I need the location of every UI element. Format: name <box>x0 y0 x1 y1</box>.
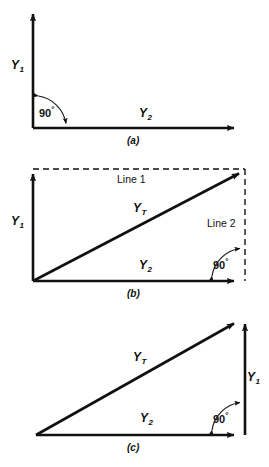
panel-c-caption: (c) <box>127 443 139 453</box>
panel-b-label-yt: YT <box>133 202 146 217</box>
panel-c-label-y2: Y2 <box>140 412 153 427</box>
panel-a-angle-label: 90° <box>39 106 54 119</box>
panel-a-label-y1: Y1 <box>11 59 24 74</box>
panel-b-angle-label: 90° <box>213 258 228 271</box>
panel-a-caption: (a) <box>127 136 139 146</box>
vector-diagram-figure: Y1 Y2 90° (a) Y1 Y2 YT Line 1 Line 2 90°… <box>0 0 269 467</box>
panel-b-label-line-1: Line 1 <box>117 174 146 185</box>
panel-a-label-y2: Y2 <box>139 107 152 122</box>
panel-b-label-y2: Y2 <box>139 259 152 274</box>
panel-a-graphics <box>33 14 234 128</box>
figure-canvas <box>0 0 269 467</box>
panel-c-label-yt: YT <box>133 351 146 366</box>
panel-c-vector-yt-resultant <box>36 324 234 436</box>
panel-c-label-y1: Y1 <box>247 371 260 386</box>
panel-c-angle-label: 90° <box>213 412 228 425</box>
panel-b-caption: (b) <box>127 289 140 299</box>
panel-b-label-line-2: Line 2 <box>207 218 236 229</box>
panel-b-label-y1: Y1 <box>11 215 24 230</box>
